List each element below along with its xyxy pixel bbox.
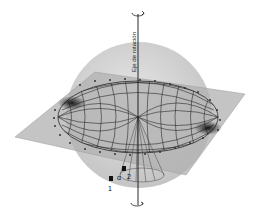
rotation-arrow-bottom-icon bbox=[131, 202, 143, 206]
label-point-1: 1 bbox=[108, 185, 112, 192]
diagram-canvas: Eje de rotación 1 α 2 bbox=[0, 0, 256, 220]
label-angle: α bbox=[117, 174, 121, 181]
marker-1 bbox=[109, 176, 113, 181]
marker-2 bbox=[122, 166, 126, 171]
diagram-svg bbox=[0, 0, 256, 220]
axis-label: Eje de rotación bbox=[131, 32, 137, 72]
label-point-2: 2 bbox=[127, 173, 131, 180]
